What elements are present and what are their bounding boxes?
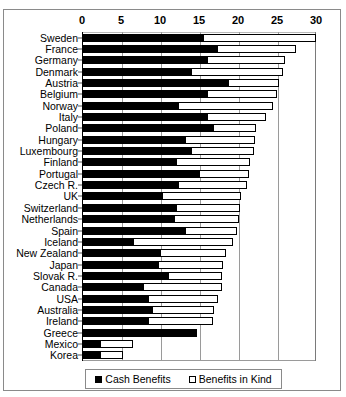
bar-segment-benefits-in-kind [143, 283, 222, 291]
bar-segment-cash-benefits [82, 79, 228, 87]
bar-segment-cash-benefits [82, 56, 207, 64]
stacked-bar [82, 102, 316, 110]
bar-segment-cash-benefits [82, 34, 203, 42]
stacked-bar [82, 192, 316, 200]
x-tick-label-25: 25 [271, 13, 283, 27]
bar-segment-benefits-in-kind [100, 340, 133, 348]
bar-segment-benefits-in-kind [213, 124, 256, 132]
bar-segment-benefits-in-kind [148, 317, 213, 325]
bar-segment-cash-benefits [82, 227, 185, 235]
bar-segment-cash-benefits [82, 170, 199, 178]
bar-segment-benefits-in-kind [228, 79, 279, 87]
bar-segment-benefits-in-kind [176, 204, 240, 212]
bar-segment-benefits-in-kind [207, 90, 277, 98]
category-label-mexico: Mexico [45, 338, 78, 349]
category-label-iceland: Iceland [44, 236, 78, 247]
stacked-bar [82, 215, 316, 223]
legend-label-benefits-in-kind: Benefits in Kind [199, 373, 272, 385]
stacked-bar [82, 272, 316, 280]
stacked-bar [82, 124, 316, 132]
bar-segment-benefits-in-kind [168, 272, 223, 280]
bar-segment-cash-benefits [82, 215, 174, 223]
bar-segment-benefits-in-kind [178, 102, 273, 110]
bar-segment-benefits-in-kind [185, 136, 255, 144]
bar-segment-cash-benefits [82, 261, 158, 269]
bar-segment-cash-benefits [82, 272, 168, 280]
category-label-luxembourg: Luxembourg [20, 146, 78, 157]
stacked-bar [82, 90, 316, 98]
category-label-spain: Spain [51, 225, 78, 236]
bar-segment-cash-benefits [82, 45, 217, 53]
stacked-bar [82, 340, 316, 348]
bar-segment-cash-benefits [82, 329, 197, 337]
category-label-new-zealand: New Zealand [16, 248, 78, 259]
legend-label-cash-benefits: Cash Benefits [105, 373, 170, 385]
category-label-korea: Korea [50, 350, 78, 361]
bar-segment-cash-benefits [82, 283, 143, 291]
stacked-bar [82, 329, 316, 337]
stacked-bar [82, 181, 316, 189]
bar-row: Czech R. [0, 179, 346, 190]
category-label-poland: Poland [45, 123, 78, 134]
category-label-germany: Germany [35, 55, 78, 66]
x-tick-label-30: 30 [310, 13, 322, 27]
legend-item-benefits-in-kind: Benefits in Kind [189, 373, 272, 385]
bar-segment-cash-benefits [82, 306, 152, 314]
bar-segment-cash-benefits [82, 295, 148, 303]
category-label-italy: Italy [59, 112, 78, 123]
bar-segment-cash-benefits [82, 124, 213, 132]
chart-legend: Cash Benefits Benefits in Kind [85, 369, 282, 389]
bar-segment-cash-benefits [82, 113, 207, 121]
stacked-bar [82, 238, 316, 246]
stacked-bar [82, 227, 316, 235]
stacked-bar [82, 306, 316, 314]
bar-segment-cash-benefits [82, 102, 178, 110]
legend-item-cash-benefits: Cash Benefits [95, 373, 170, 385]
x-tick-label-0: 0 [79, 13, 85, 27]
stacked-bar [82, 147, 316, 155]
bar-segment-benefits-in-kind [217, 45, 297, 53]
bar-row: Korea [0, 350, 346, 361]
bar-segment-benefits-in-kind [178, 181, 247, 189]
bar-segment-benefits-in-kind [160, 249, 226, 257]
filled-square-icon [95, 376, 102, 383]
bar-segment-benefits-in-kind [133, 238, 233, 246]
stacked-bar [82, 283, 316, 291]
x-tick-label-5: 5 [118, 13, 124, 27]
bar-segment-cash-benefits [82, 249, 160, 257]
stacked-bar [82, 56, 316, 64]
bar-segment-cash-benefits [82, 238, 133, 246]
bar-segment-benefits-in-kind [191, 68, 283, 76]
category-label-portugal: Portugal [39, 168, 78, 179]
category-label-czech-r: Czech R. [35, 180, 78, 191]
category-label-norway: Norway [42, 100, 78, 111]
bar-segment-cash-benefits [82, 181, 178, 189]
bar-segment-benefits-in-kind [100, 351, 123, 359]
stacked-bar [82, 34, 316, 42]
bar-segment-benefits-in-kind [207, 113, 266, 121]
bar-segment-cash-benefits [82, 158, 176, 166]
stacked-bar [82, 261, 316, 269]
bar-segment-benefits-in-kind [152, 306, 214, 314]
category-label-canada: Canada [41, 282, 78, 293]
x-tick-label-10: 10 [154, 13, 166, 27]
bar-segment-benefits-in-kind [191, 147, 254, 155]
bar-segment-benefits-in-kind [176, 158, 250, 166]
stacked-bar [82, 351, 316, 359]
category-label-sweden: Sweden [40, 32, 78, 43]
stacked-bar [82, 113, 316, 121]
bar-segment-benefits-in-kind [158, 261, 223, 269]
bar-segment-cash-benefits [82, 204, 176, 212]
category-label-ireland: Ireland [46, 316, 78, 327]
bar-segment-cash-benefits [82, 136, 185, 144]
category-label-usa: USA [56, 293, 78, 304]
bar-row: Norway [0, 100, 346, 111]
stacked-bar-chart: 051015202530 SwedenFranceGermanyDenmarkA… [0, 0, 346, 397]
bar-segment-benefits-in-kind [203, 34, 316, 42]
stacked-bar [82, 317, 316, 325]
bar-segment-cash-benefits [82, 317, 148, 325]
stacked-bar [82, 68, 316, 76]
category-label-hungary: Hungary [38, 134, 78, 145]
bar-segment-benefits-in-kind [174, 215, 239, 223]
category-label-austria: Austria [45, 78, 78, 89]
